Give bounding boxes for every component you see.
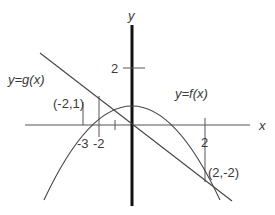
- point-label-neg2-1: (-2,1): [53, 97, 84, 110]
- x-tick-label-2: 2: [201, 136, 208, 149]
- function-graph: y x 2 -3 -2 2 y=f(x) y=g(x) (-2,1) (2,-2…: [0, 0, 275, 215]
- line-g: [40, 53, 232, 201]
- x-axis-label: x: [259, 119, 266, 132]
- x-tick-label-neg2: -2: [93, 137, 105, 150]
- curve-g-label: y=g(x): [8, 73, 44, 86]
- y-tick-label-2: 2: [111, 62, 118, 75]
- point-label-2-neg2: (2,-2): [208, 166, 239, 179]
- y-axis-label: y: [128, 9, 135, 22]
- graph-canvas: [0, 0, 275, 215]
- x-tick-label-neg3: -3: [77, 137, 89, 150]
- curve-f-label: y=f(x): [175, 87, 208, 100]
